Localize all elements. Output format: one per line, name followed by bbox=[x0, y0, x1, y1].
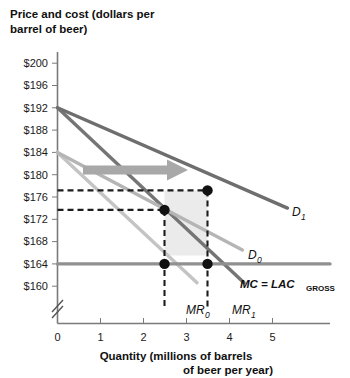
y-axis-title-line2: barrel of beer) bbox=[10, 23, 87, 35]
y-tick-label-196: $196 bbox=[24, 79, 48, 91]
curve-label-mr0-text: MR bbox=[186, 303, 205, 317]
curve-label-d0-text: D bbox=[248, 248, 257, 262]
curve-label-mr1: MR 1 bbox=[232, 303, 256, 320]
y-tick-label-160: $160 bbox=[24, 280, 48, 292]
marker-output-initial bbox=[159, 259, 169, 269]
x-tick-label-1: 1 bbox=[97, 331, 103, 343]
x-tick-label-0: 0 bbox=[54, 331, 60, 343]
x-axis-title-line1: Quantity (millions of barrels bbox=[100, 350, 253, 362]
shaded-profit-region bbox=[165, 190, 208, 255]
curve-label-mr1-text: MR bbox=[232, 303, 251, 317]
curve-label-mr1-subscript: 1 bbox=[251, 310, 256, 320]
curve-label-mr0: MR 0 bbox=[186, 303, 210, 320]
curve-label-d1-subscript: 1 bbox=[301, 212, 306, 222]
marker-equilibrium-final bbox=[202, 185, 212, 195]
marker-equilibrium-initial bbox=[159, 205, 169, 215]
curve-label-mr0-subscript: 0 bbox=[205, 310, 210, 320]
y-tick-label-184: $184 bbox=[24, 146, 48, 158]
curve-mr1 bbox=[58, 108, 245, 283]
y-tick-label-176: $176 bbox=[24, 191, 48, 203]
x-tick-label-5: 5 bbox=[269, 331, 275, 343]
y-tick-label-168: $168 bbox=[24, 235, 48, 247]
x-tick-label-4: 4 bbox=[226, 331, 232, 343]
x-tick-label-3: 3 bbox=[183, 331, 189, 343]
curve-label-d1-text: D bbox=[292, 205, 301, 219]
curve-label-mc-lac: MC = LAC GROSS bbox=[240, 278, 336, 293]
curve-label-mc-lac-text: MC = LAC bbox=[240, 278, 295, 290]
price-and-cost-chart: Price and cost (dollars per barrel of be… bbox=[0, 0, 350, 378]
x-axis-title-line2: of beer per year) bbox=[183, 364, 273, 376]
y-tick-label-192: $192 bbox=[24, 102, 48, 114]
y-tick-label-180: $180 bbox=[24, 169, 48, 181]
y-tick-label-200: $200 bbox=[24, 57, 48, 69]
curve-label-mc-lac-subscript: GROSS bbox=[306, 284, 336, 293]
y-tick-label-172: $172 bbox=[24, 213, 48, 225]
y-tick-label-188: $188 bbox=[24, 124, 48, 136]
marker-output-final bbox=[202, 259, 212, 269]
x-tick-label-2: 2 bbox=[140, 331, 146, 343]
curve-label-d0: D 0 bbox=[248, 248, 262, 265]
y-axis-title-line1: Price and cost (dollars per bbox=[10, 8, 155, 20]
x-axis-ticks bbox=[101, 318, 273, 324]
curve-label-d0-subscript: 0 bbox=[257, 255, 262, 265]
curve-label-d1: D 1 bbox=[292, 205, 306, 222]
demand-shift-arrow-icon bbox=[83, 160, 188, 181]
y-tick-label-164: $164 bbox=[24, 258, 48, 270]
